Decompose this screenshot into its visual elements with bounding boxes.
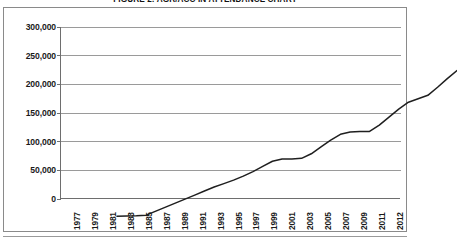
x-tick-label-1977: 1977 [72,200,82,230]
x-tick-label-2009: 2009 [359,200,369,230]
x-tick-label-1981: 1981 [108,200,118,230]
x-tick-label-1999: 1999 [269,200,279,230]
chart-frame: 050,000100,000150,000200,000250,000300,0… [3,7,407,232]
y-tick-label-300000: 300,000 [26,22,56,32]
x-tick-label-1989: 1989 [180,200,190,230]
x-tick-label-2012: 2012 [395,200,405,230]
x-tick-label-2001: 2001 [287,200,297,230]
plot-area [60,27,400,199]
x-tick-label-1979: 1979 [90,200,100,230]
page-rule [3,236,407,237]
attendance-polyline [117,71,457,217]
y-tick-label-50000: 50,000 [30,165,56,175]
x-tick-label-2003: 2003 [305,200,315,230]
x-axis-labels: 1977197919811983198519871989199119931995… [60,200,400,234]
gridline-300000 [61,27,401,28]
x-tick-label-1985: 1985 [144,200,154,230]
y-tick-label-200000: 200,000 [26,79,56,89]
y-tick-label-0: 0 [51,194,56,204]
y-tick-mark-150000 [57,113,61,114]
x-tick-label-1993: 1993 [216,200,226,230]
x-tick-label-1983: 1983 [126,200,136,230]
x-tick-label-1995: 1995 [234,200,244,230]
x-tick-label-2007: 2007 [341,200,351,230]
x-tick-label-2011: 2011 [377,200,387,230]
series-line-attendance [117,46,457,218]
y-tick-mark-100000 [57,141,61,142]
y-tick-label-250000: 250,000 [26,51,56,61]
y-tick-mark-250000 [57,55,61,56]
y-axis-labels: 050,000100,000150,000200,000250,000300,0… [4,27,56,199]
y-tick-label-150000: 150,000 [26,108,56,118]
x-tick-label-1991: 1991 [198,200,208,230]
figure-title: FIGURE 2: AGR/ACC IN ATTENDANCE CHART [0,0,410,6]
x-tick-label-1987: 1987 [162,200,172,230]
y-tick-mark-200000 [57,84,61,85]
y-tick-mark-300000 [57,27,61,28]
x-tick-label-2005: 2005 [323,200,333,230]
y-tick-mark-50000 [57,170,61,171]
x-tick-label-1997: 1997 [251,200,261,230]
y-tick-label-100000: 100,000 [26,137,56,147]
